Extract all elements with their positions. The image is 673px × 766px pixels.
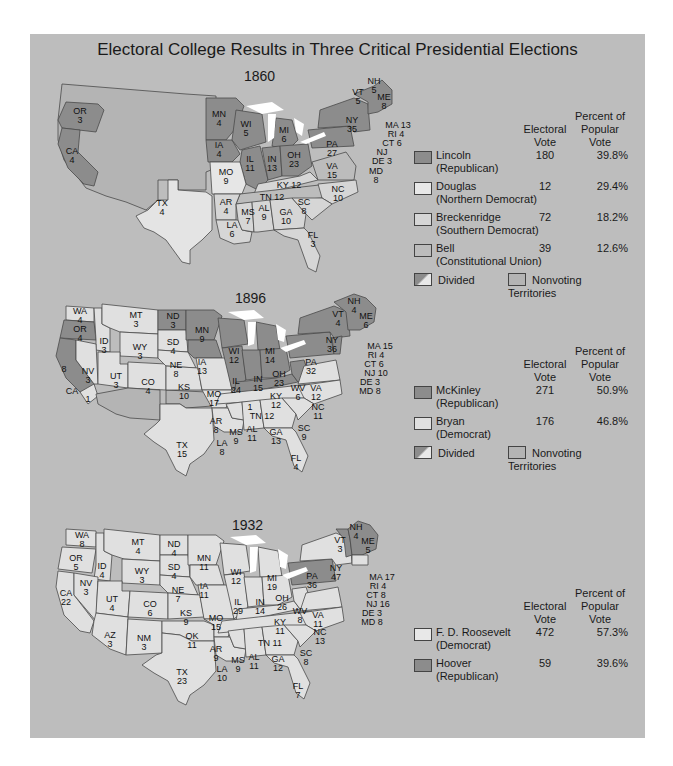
svg-text:13: 13 (197, 366, 207, 376)
legend-1896: ElectoralVote Percent ofPopularVote McKi… (412, 340, 627, 464)
svg-text:9: 9 (183, 617, 188, 627)
svg-text:22: 22 (61, 597, 71, 607)
svg-text:23: 23 (177, 676, 187, 686)
svg-text:9: 9 (223, 176, 228, 186)
svg-text:4: 4 (145, 386, 150, 396)
svg-text:4: 4 (216, 118, 221, 128)
svg-text:14: 14 (255, 606, 265, 616)
svg-text:3: 3 (113, 380, 118, 390)
svg-text:3: 3 (139, 575, 144, 585)
swatch-southern-democrat (414, 213, 432, 226)
svg-text:8: 8 (303, 657, 308, 667)
svg-text:11: 11 (187, 640, 196, 650)
legend-row-roosevelt: F. D. Roosevelt(Democrat) 472 57.3% (412, 626, 627, 657)
svg-text:4: 4 (353, 531, 358, 541)
svg-text:27: 27 (327, 148, 337, 158)
svg-text:47: 47 (331, 572, 341, 582)
svg-text:13: 13 (315, 636, 325, 646)
svg-text:3: 3 (137, 351, 142, 361)
svg-text:11: 11 (313, 411, 322, 421)
swatch-republican (414, 151, 432, 164)
svg-text:23: 23 (274, 378, 284, 388)
svg-text:8: 8 (173, 369, 178, 379)
svg-text:11: 11 (199, 590, 208, 600)
us-map-1896: WA4 OR4 8 CA 1 ID3 NV3 MT3 WY3 UT3 CO4 N… (36, 300, 406, 520)
svg-text:8: 8 (219, 447, 224, 457)
svg-text:4: 4 (171, 571, 176, 581)
svg-text:TN 12: TN 12 (260, 192, 285, 202)
svg-text:11: 11 (247, 433, 256, 443)
svg-text:6: 6 (147, 608, 152, 618)
svg-text:11: 11 (245, 163, 254, 173)
svg-text:8: 8 (373, 175, 378, 185)
svg-text:9: 9 (199, 334, 204, 344)
svg-text:4: 4 (159, 207, 164, 217)
us-map-1932: WA8 OR5 CA22 ID4 NV3 MT4 WY3 UT4 CO6 AZ3… (36, 525, 406, 745)
svg-text:CA: CA (66, 386, 79, 396)
svg-text:8: 8 (61, 364, 66, 374)
svg-text:3: 3 (107, 639, 112, 649)
svg-text:KY 12: KY 12 (277, 180, 301, 190)
popular-vote-header: Percent ofPopularVote (572, 110, 628, 149)
svg-text:4: 4 (135, 546, 140, 556)
electoral-vote-header: ElectoralVote (520, 600, 570, 626)
svg-text:5: 5 (371, 85, 376, 95)
svg-text:4: 4 (171, 548, 176, 558)
swatch-republican (414, 659, 432, 672)
svg-text:15: 15 (253, 383, 263, 393)
state-wi (218, 318, 248, 348)
map-1860: OR3 CA4 TX4 MN4 IA4 MO9 AR4 LA6 WI5 IL11… (36, 80, 406, 300)
legend-1860: ElectoralVote Percent ofPopularVote Linc… (412, 105, 627, 291)
svg-text:9: 9 (235, 664, 240, 674)
svg-text:14: 14 (265, 355, 275, 365)
svg-text:4: 4 (335, 318, 340, 328)
svg-text:8: 8 (79, 539, 84, 549)
svg-text:TN 11: TN 11 (258, 638, 282, 648)
legend-header: ElectoralVote Percent ofPopularVote (412, 340, 627, 384)
swatch-northern-democrat (414, 182, 432, 195)
svg-text:6: 6 (295, 392, 300, 402)
svg-text:15: 15 (177, 449, 187, 459)
svg-text:5: 5 (243, 128, 248, 138)
svg-text:1: 1 (85, 394, 90, 404)
svg-text:8: 8 (297, 615, 302, 625)
svg-text:4: 4 (293, 462, 298, 472)
state-ia (188, 340, 222, 358)
svg-text:12: 12 (271, 400, 281, 410)
svg-text:11: 11 (249, 661, 258, 671)
svg-text:29: 29 (233, 606, 243, 616)
legend-row-bell: Bell(Constitutional Union) 39 12.6% (412, 242, 627, 273)
svg-text:23: 23 (289, 159, 299, 169)
svg-text:10: 10 (333, 193, 343, 203)
svg-text:10: 10 (281, 216, 291, 226)
legend-1932: ElectoralVote Percent ofPopularVote F. D… (412, 582, 627, 688)
swatch-republican (414, 386, 432, 399)
svg-text:24: 24 (231, 385, 241, 395)
svg-text:15: 15 (327, 170, 337, 180)
svg-text:5: 5 (73, 562, 78, 572)
svg-text:32: 32 (306, 366, 316, 376)
svg-text:12: 12 (229, 355, 239, 365)
legend-header: ElectoralVote Percent ofPopularVote (412, 582, 627, 626)
svg-text:3: 3 (337, 544, 342, 554)
svg-text:8: 8 (213, 425, 218, 435)
svg-text:19: 19 (267, 582, 277, 592)
swatch-constitutional-union (414, 244, 432, 257)
state-ma-ri-ct (352, 555, 368, 565)
svg-text:26: 26 (277, 602, 287, 612)
svg-text:3: 3 (101, 345, 106, 355)
svg-text:4: 4 (69, 155, 74, 165)
swatch-democrat (414, 417, 432, 430)
swatch-divided (414, 446, 432, 459)
svg-text:3: 3 (83, 587, 88, 597)
svg-text:3: 3 (170, 320, 175, 330)
svg-text:9: 9 (213, 653, 218, 663)
legend-footer: Divided Nonvoting Territories (412, 446, 627, 464)
lake-superior (230, 535, 266, 545)
swatch-nonvoting (508, 446, 526, 459)
lake-superior (228, 310, 264, 320)
svg-text:4: 4 (170, 346, 175, 356)
svg-text:10: 10 (179, 391, 189, 401)
svg-text:TN 12: TN 12 (250, 411, 275, 421)
svg-text:4: 4 (109, 603, 114, 613)
